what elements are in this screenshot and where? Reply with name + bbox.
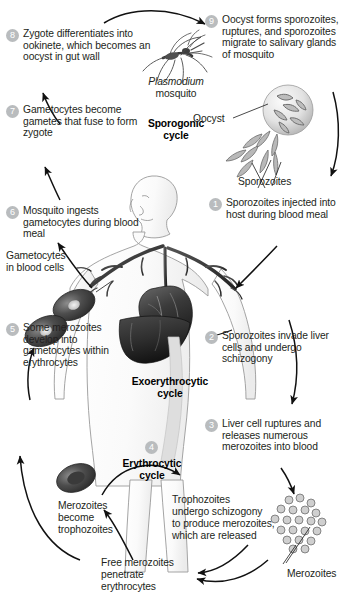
sporogonic-cycle-label-line2: cycle xyxy=(128,130,224,142)
exoerythrocytic-cycle-label-line1: Exoerythrocytic xyxy=(110,376,230,388)
step-6-text: Mosquito ingests gametocytes during bloo… xyxy=(23,205,146,240)
step-8[interactable]: 8 Zygote differentiates into ookinete, w… xyxy=(6,28,158,63)
erythrocytic-cycle-label-line1: Erythrocytic xyxy=(104,458,200,470)
sporozoites-label: Sporozoites xyxy=(238,176,291,188)
arrow-6-to-7 xyxy=(45,167,60,200)
oocyst-label: Oocyst xyxy=(193,113,224,125)
step-4-badge[interactable]: 4 xyxy=(145,441,158,454)
free-merozoites-label-line1: Free merozoites xyxy=(101,557,174,569)
step-5[interactable]: 5 Some merozoites develop into gametocyt… xyxy=(6,322,124,368)
malaria-lifecycle-diagram: 8 Zygote differentiates into ookinete, w… xyxy=(0,0,350,602)
step-6-badge: 6 xyxy=(6,206,19,219)
step-8-badge: 8 xyxy=(6,29,19,42)
trophozoites-label-line2: undergo schizogony xyxy=(172,506,262,518)
step-1-badge: 1 xyxy=(209,198,222,211)
sporozoites-illustration xyxy=(226,131,278,177)
merozoites-become-label-line1: Merozoites xyxy=(58,500,107,512)
step-1-text: Sporozoites injected into host during bl… xyxy=(226,197,339,220)
step-3-text: Liver cell ruptures and releases numerou… xyxy=(222,418,347,453)
arrow-8-to-9 xyxy=(104,11,205,24)
gametocytes-label-line1: Gametocytes xyxy=(6,250,66,262)
gametocytes-label-line2: in blood cells xyxy=(6,262,64,274)
step-2-text: Sporozoites invade liver cells and under… xyxy=(222,330,350,365)
step-2-badge: 2 xyxy=(205,331,218,344)
erythrocyte-illustration xyxy=(53,458,100,497)
arrow-3-to-merozoites xyxy=(281,468,294,494)
trophozoites-label-line1: Trophozoites xyxy=(172,494,230,506)
arrow-1-into-host xyxy=(236,246,277,288)
step-9-badge: 9 xyxy=(205,15,218,28)
step-6[interactable]: 6 Mosquito ingests gametocytes during bl… xyxy=(6,205,146,240)
erythrocytic-cycle-label-line2: cycle xyxy=(104,470,200,482)
step-3-badge: 3 xyxy=(205,419,218,432)
step-9-text: Oocyst forms sporozoites, ruptures, and … xyxy=(222,14,347,60)
trophozoites-label-line3: to produce merozoites, xyxy=(172,518,275,530)
free-merozoites-label-line3: erythrocytes xyxy=(101,581,156,593)
plasmodium-label: Plasmodium xyxy=(134,76,218,88)
arrow-schizogony-to-free xyxy=(198,545,248,573)
trophozoites-label-line4: which are released xyxy=(172,530,257,542)
step-1[interactable]: 1 Sporozoites injected into host during … xyxy=(209,197,339,220)
merozoites-become-label-line3: trophozoites xyxy=(58,524,113,536)
merozoites-cluster-label: Merozoites xyxy=(287,568,336,580)
free-merozoites-label-line2: penetrate xyxy=(101,569,144,581)
mosquito-label: mosquito xyxy=(134,88,218,100)
arrow-9-to-1 xyxy=(331,92,338,176)
step-5-badge: 5 xyxy=(6,323,19,336)
exoerythrocytic-cycle-label-line2: cycle xyxy=(110,388,230,400)
merozoites-become-label-line2: become xyxy=(58,512,94,524)
step-7-badge: 7 xyxy=(6,105,19,118)
step-5-text: Some merozoites develop into gametocytes… xyxy=(23,322,124,368)
step-3[interactable]: 3 Liver cell ruptures and releases numer… xyxy=(205,418,347,453)
step-8-text: Zygote differentiates into ookinete, whi… xyxy=(23,28,158,63)
oocyst-illustration xyxy=(226,85,313,188)
step-2[interactable]: 2 Sporozoites invade liver cells and und… xyxy=(205,330,350,365)
step-9[interactable]: 9 Oocyst forms sporozoites, ruptures, an… xyxy=(205,14,347,60)
